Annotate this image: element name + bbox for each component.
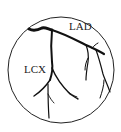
coronary-diagram: LAD LCX — [0, 0, 121, 132]
lad-label: LAD — [69, 20, 92, 32]
left-main-artery — [29, 28, 52, 30]
lcx-label: LCX — [24, 63, 46, 75]
lad-artery — [52, 30, 110, 98]
